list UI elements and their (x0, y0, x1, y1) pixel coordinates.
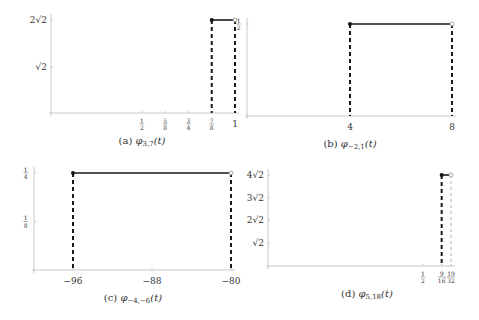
x-tick-label: −80 (222, 276, 241, 286)
closed-endpoint (71, 171, 75, 175)
y-tick-label: 18 (23, 214, 28, 229)
open-endpoint (450, 22, 454, 26)
y-tick-label: 3√2 (247, 193, 264, 203)
svg-text:−80: −80 (222, 276, 241, 286)
svg-text:2: 2 (421, 277, 425, 284)
svg-text:8: 8 (24, 222, 28, 229)
x-tick-label: 1 (232, 119, 238, 129)
plot-caption: (a) φ3,7(t) (119, 135, 166, 148)
x-tick-label: 4 (347, 122, 353, 132)
svg-text:√2: √2 (36, 62, 47, 72)
open-endpoint (449, 173, 453, 177)
svg-text:1: 1 (232, 119, 238, 129)
y-tick-label: √2 (36, 62, 47, 72)
x-tick-label: 916 (438, 270, 446, 285)
svg-text:3: 3 (187, 117, 191, 124)
svg-text:−96: −96 (64, 276, 83, 286)
x-tick-label: 12 (421, 270, 426, 285)
svg-text:8: 8 (449, 122, 455, 132)
svg-text:4√2: 4√2 (247, 170, 264, 180)
svg-text:4: 4 (24, 173, 28, 180)
figure: 125834781√22√2(a) φ3,7(t) 4812(b) φ−2,1(… (0, 0, 479, 320)
open-endpoint (229, 171, 233, 175)
plot-caption: (b) φ−2,1(t) (323, 138, 376, 151)
closed-endpoint (348, 22, 352, 26)
svg-text:3√2: 3√2 (247, 193, 264, 203)
x-tick-label: 34 (186, 117, 191, 132)
y-tick-label: 12 (236, 17, 241, 32)
svg-text:1: 1 (421, 270, 425, 277)
svg-text:2: 2 (237, 24, 241, 31)
y-tick-label: √2 (253, 238, 264, 248)
svg-text:19: 19 (447, 270, 455, 277)
y-tick-label: 2√2 (30, 15, 47, 25)
plot-caption: (d) φ5,18(t) (341, 288, 393, 301)
svg-text:16: 16 (438, 277, 446, 284)
svg-text:1: 1 (237, 17, 241, 24)
svg-text:5: 5 (163, 117, 167, 124)
x-tick-label: 1932 (447, 270, 455, 285)
plot-caption: (c) φ−4,−6(t) (104, 292, 162, 305)
x-tick-label: 12 (140, 117, 145, 132)
svg-text:√2: √2 (253, 238, 264, 248)
svg-text:4: 4 (187, 124, 191, 131)
svg-text:2: 2 (140, 124, 144, 131)
plot-b: 4812(b) φ−2,1(t) (236, 17, 456, 152)
y-tick-label: 14 (23, 166, 28, 181)
y-tick-label: 2√2 (247, 215, 264, 225)
svg-text:8: 8 (210, 124, 214, 131)
x-tick-label: 78 (209, 117, 214, 132)
svg-text:1: 1 (24, 214, 28, 221)
plot-c: −96−88−801814(c) φ−4,−6(t) (23, 166, 240, 306)
closed-endpoint (210, 18, 214, 22)
svg-text:8: 8 (163, 124, 167, 131)
svg-text:−88: −88 (143, 276, 162, 286)
svg-text:1: 1 (24, 166, 28, 173)
plot-a: 125834781√22√2(a) φ3,7(t) (30, 14, 239, 148)
svg-text:32: 32 (447, 277, 455, 284)
x-tick-label: 58 (163, 117, 168, 132)
y-tick-label: 4√2 (247, 170, 264, 180)
x-tick-label: −96 (64, 276, 83, 286)
x-tick-label: 8 (449, 122, 455, 132)
closed-endpoint (440, 173, 444, 177)
svg-text:4: 4 (347, 122, 353, 132)
svg-text:2√2: 2√2 (247, 215, 264, 225)
svg-text:1: 1 (140, 117, 144, 124)
svg-text:9: 9 (440, 270, 444, 277)
plot-d: 129161932√22√23√24√2(d) φ5,18(t) (247, 169, 455, 301)
svg-text:2√2: 2√2 (30, 15, 47, 25)
svg-text:7: 7 (210, 117, 214, 124)
x-tick-label: −88 (143, 276, 162, 286)
